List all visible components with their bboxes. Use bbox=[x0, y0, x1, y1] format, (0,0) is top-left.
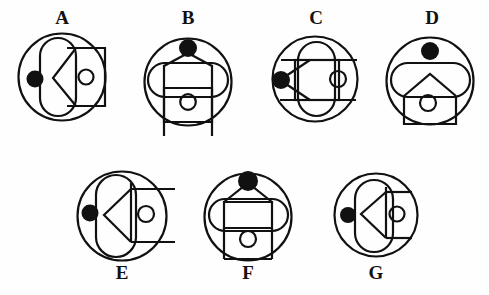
figure-f-horizontal-stadium bbox=[209, 199, 288, 231]
figure-a bbox=[19, 34, 106, 121]
figure-b-horizontal-stadium bbox=[148, 63, 228, 97]
figure-e-black-dot bbox=[82, 205, 99, 222]
figure-d-horizontal-stadium bbox=[391, 63, 470, 97]
figure-g-left-chevron bbox=[361, 192, 386, 238]
figure-c bbox=[272, 37, 358, 122]
figure-f-rectangle bbox=[224, 202, 272, 228]
figure-label-b: B bbox=[175, 8, 201, 27]
figure-b bbox=[145, 39, 232, 137]
figure-e bbox=[78, 172, 176, 261]
figure-d bbox=[387, 38, 474, 125]
figures-canvas bbox=[0, 0, 489, 295]
figure-sheet: A B C D E F G bbox=[0, 0, 489, 295]
figure-f-black-dot bbox=[238, 171, 258, 191]
figure-label-e: E bbox=[109, 263, 135, 282]
figure-a-left-chevron bbox=[53, 48, 76, 106]
figure-g bbox=[335, 174, 418, 257]
figure-c-black-dot bbox=[272, 71, 290, 89]
figure-f-small-circle bbox=[240, 231, 256, 247]
figure-e-left-chevron bbox=[104, 189, 131, 242]
figure-d-black-dot bbox=[421, 42, 439, 60]
figure-a-vertical-stadium bbox=[40, 38, 76, 116]
figure-b-house-pentagon bbox=[164, 53, 212, 88]
figure-label-f: F bbox=[235, 263, 261, 282]
figure-label-g: G bbox=[363, 263, 389, 282]
figure-a-small-circle bbox=[79, 70, 94, 85]
figure-a-black-dot bbox=[27, 71, 44, 88]
figure-g-small-circle bbox=[390, 207, 405, 222]
figure-f bbox=[205, 171, 292, 261]
figure-b-black-dot bbox=[179, 39, 197, 57]
figure-e-small-circle bbox=[138, 206, 154, 222]
figure-g-vertical-stadium bbox=[355, 180, 393, 252]
figure-b-body-rectangle bbox=[164, 88, 212, 122]
figure-g-black-dot bbox=[340, 207, 356, 223]
figure-label-c: C bbox=[303, 8, 329, 27]
figure-label-a: A bbox=[49, 8, 75, 27]
figure-label-d: D bbox=[419, 8, 445, 27]
figure-d-house-roof bbox=[404, 74, 456, 96]
